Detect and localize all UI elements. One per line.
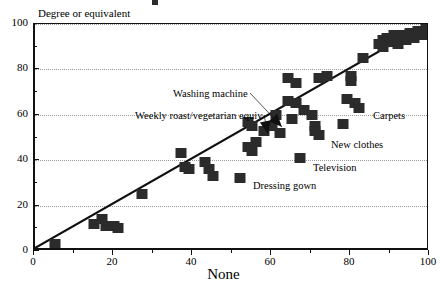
data-point <box>346 76 357 86</box>
data-point <box>274 128 285 138</box>
plot-inner <box>35 24 427 248</box>
plot-area <box>33 23 428 250</box>
x-axis-title: None <box>0 266 447 282</box>
y-tick-label-60: 60 <box>0 108 28 119</box>
y-minor-tick-90 <box>33 46 37 47</box>
stray-marker <box>152 0 158 5</box>
data-point <box>184 164 195 174</box>
annotation-dressing-gown: Dressing gown <box>253 180 316 191</box>
y-tick-label-0: 0 <box>0 244 28 255</box>
data-point <box>49 239 60 248</box>
data-point <box>251 137 262 147</box>
y-minor-tick-50 <box>33 137 37 138</box>
y-axis-title: Degree or equivalent <box>38 7 130 19</box>
x-minor-tick-30 <box>152 250 153 253</box>
data-point <box>338 119 349 129</box>
annotation-washing-machine: Washing machine <box>173 88 248 99</box>
gridline-y-100 <box>35 24 427 25</box>
data-point <box>421 24 427 34</box>
x-minor-tick-90 <box>389 250 390 253</box>
gridline-y-40 <box>35 160 427 161</box>
annotation-new-clothes: New clothes <box>331 139 383 150</box>
data-point <box>322 71 333 81</box>
y-tick-80 <box>33 68 39 69</box>
y-minor-tick-30 <box>33 182 37 183</box>
y-minor-tick-70 <box>33 91 37 92</box>
data-point <box>294 153 305 163</box>
x-minor-tick-50 <box>231 250 232 253</box>
data-point <box>290 78 301 88</box>
data-point <box>176 148 187 158</box>
data-point <box>112 223 123 233</box>
y-tick-label-80: 80 <box>0 62 28 73</box>
data-point <box>306 110 317 120</box>
y-minor-tick-10 <box>33 227 37 228</box>
y-tick-label-20: 20 <box>0 199 28 210</box>
data-point <box>270 110 281 120</box>
data-point <box>353 103 364 113</box>
scatter-chart: Degree or equivalent 0204060801000204060… <box>0 0 447 286</box>
gridline-y-80 <box>35 69 427 70</box>
y-tick-100 <box>33 23 39 24</box>
x-minor-tick-70 <box>310 250 311 253</box>
y-tick-label-100: 100 <box>0 17 28 28</box>
data-point <box>247 121 258 131</box>
data-point <box>136 189 147 199</box>
y-tick-60 <box>33 114 39 115</box>
data-point <box>357 53 368 63</box>
y-tick-40 <box>33 159 39 160</box>
data-point <box>235 173 246 183</box>
annotation-weekly-roast: Weekly roast/vegetarian equiv <box>135 110 262 121</box>
gridline-y-20 <box>35 206 427 207</box>
data-point <box>207 171 218 181</box>
data-point <box>286 114 297 124</box>
annotation-carpets: Carpets <box>373 110 405 121</box>
y-tick-20 <box>33 205 39 206</box>
x-minor-tick-10 <box>73 250 74 253</box>
y-tick-label-40: 40 <box>0 153 28 164</box>
data-point <box>247 146 258 156</box>
data-point <box>314 130 325 140</box>
annotation-television: Television <box>313 162 357 173</box>
